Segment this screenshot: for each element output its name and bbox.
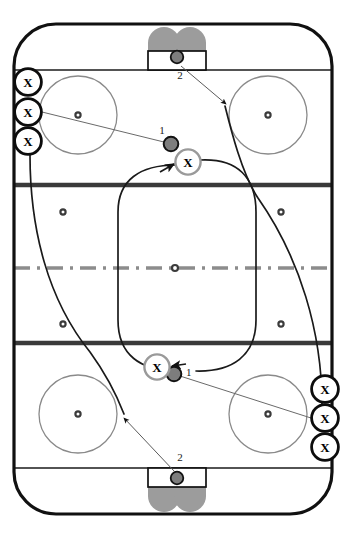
hockey-rink-diagram: X X X X X X X X 2 1 1 2 bbox=[0, 0, 346, 538]
player-x-center-top[interactable]: X bbox=[175, 149, 200, 174]
dot-top-left bbox=[75, 112, 80, 117]
step-label-bottom-goal: 2 bbox=[177, 451, 183, 463]
player-x-center-top-label: X bbox=[183, 155, 193, 170]
player-x-right-2-label: X bbox=[320, 411, 330, 426]
player-x-center-bottom-label: X bbox=[152, 360, 162, 375]
puck-top-carrier bbox=[164, 137, 179, 152]
player-x-right-3-label: X bbox=[320, 440, 330, 455]
dot-bottom-left bbox=[75, 411, 80, 416]
dot-center-ice bbox=[172, 265, 178, 271]
dot-neutral-bot-left bbox=[60, 321, 65, 326]
player-x-left-3-label: X bbox=[23, 134, 33, 149]
player-x-right-1[interactable]: X bbox=[312, 376, 339, 403]
player-x-left-2[interactable]: X bbox=[15, 99, 42, 126]
player-x-left-1-label: X bbox=[23, 75, 33, 90]
dot-neutral-top-left bbox=[60, 209, 65, 214]
dot-neutral-bot-right bbox=[278, 321, 283, 326]
rink-canvas: X X X X X X X X 2 1 1 2 bbox=[0, 0, 346, 538]
dot-bottom-right bbox=[265, 411, 270, 416]
step-label-top-carrier: 1 bbox=[159, 124, 165, 136]
player-x-left-1[interactable]: X bbox=[15, 69, 42, 96]
player-x-center-bottom[interactable]: X bbox=[144, 354, 169, 379]
step-label-top-goal: 2 bbox=[177, 69, 183, 81]
puck-bottom-goal bbox=[171, 472, 184, 485]
puck-top-goal bbox=[171, 51, 184, 64]
player-x-left-3[interactable]: X bbox=[15, 128, 42, 155]
step-label-bottom-carrier: 1 bbox=[186, 366, 192, 378]
dot-neutral-top-right bbox=[278, 209, 283, 214]
player-x-right-2[interactable]: X bbox=[312, 405, 339, 432]
dot-top-right bbox=[265, 112, 270, 117]
player-x-right-1-label: X bbox=[320, 382, 330, 397]
player-x-left-2-label: X bbox=[23, 105, 33, 120]
player-x-right-3[interactable]: X bbox=[312, 434, 339, 461]
